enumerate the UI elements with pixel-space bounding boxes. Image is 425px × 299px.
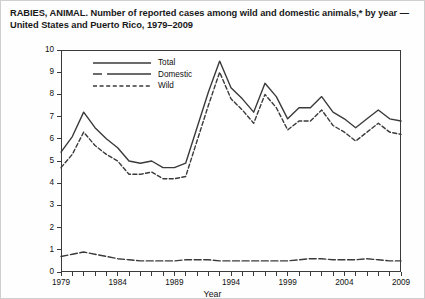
x-tick-label: 2009 [384, 278, 418, 287]
x-tick-mark [106, 272, 107, 276]
legend-swatch-dashed [93, 81, 151, 91]
y-tick-label: 0 [36, 267, 54, 276]
x-tick-mark [265, 272, 266, 276]
legend-item-total: Total [93, 57, 192, 69]
y-tick-mark [57, 205, 61, 206]
x-tick-mark [129, 272, 130, 276]
x-tick-mark [367, 272, 368, 276]
legend-item-domestic: Domestic [93, 69, 192, 81]
x-tick-mark [72, 272, 73, 276]
y-tick-label: 7 [36, 112, 54, 121]
x-tick-mark [378, 272, 379, 276]
x-tick-mark [174, 272, 175, 276]
x-tick-mark [197, 272, 198, 276]
y-tick-mark [57, 94, 61, 95]
y-tick-label: 5 [36, 156, 54, 165]
y-tick-mark [57, 249, 61, 250]
x-tick-mark [310, 272, 311, 276]
x-tick-mark [333, 272, 334, 276]
x-tick-label: 2004 [327, 278, 361, 287]
x-tick-label: 1994 [214, 278, 248, 287]
chart-title: RABIES, ANIMAL. Number of reported cases… [10, 8, 416, 31]
y-tick-mark [57, 72, 61, 73]
legend-item-wild: Wild [93, 80, 192, 92]
x-tick-mark [208, 272, 209, 276]
x-tick-label: 1979 [44, 278, 78, 287]
x-tick-mark [321, 272, 322, 276]
legend-label: Total [158, 58, 175, 67]
x-tick-mark [231, 272, 232, 276]
x-tick-mark [219, 272, 220, 276]
y-tick-label: 2 [36, 223, 54, 232]
y-tick-mark [57, 50, 61, 51]
x-tick-mark [140, 272, 141, 276]
x-tick-label: 1989 [157, 278, 191, 287]
y-tick-mark [57, 183, 61, 184]
x-tick-mark [253, 272, 254, 276]
x-tick-mark [185, 272, 186, 276]
chart-page: RABIES, ANIMAL. Number of reported cases… [0, 0, 425, 299]
x-tick-mark [95, 272, 96, 276]
y-tick-label: 6 [36, 134, 54, 143]
x-tick-mark [163, 272, 164, 276]
x-tick-mark [61, 272, 62, 276]
legend-swatch-solid [93, 58, 151, 68]
x-tick-mark [401, 272, 402, 276]
y-tick-mark [57, 227, 61, 228]
legend-swatch-dash-dot [93, 69, 151, 79]
y-tick-label: 4 [36, 178, 54, 187]
chart-legend: TotalDomesticWild [93, 57, 192, 92]
y-tick-label: 1 [36, 245, 54, 254]
x-tick-mark [242, 272, 243, 276]
x-tick-mark [299, 272, 300, 276]
y-tick-label: 9 [36, 67, 54, 76]
x-tick-mark [83, 272, 84, 276]
y-tick-mark [57, 116, 61, 117]
x-tick-mark [151, 272, 152, 276]
x-axis-label: Year [1, 289, 424, 299]
x-tick-mark [344, 272, 345, 276]
y-tick-mark [57, 138, 61, 139]
x-tick-mark [276, 272, 277, 276]
y-tick-label: 3 [36, 200, 54, 209]
x-tick-label: 1984 [101, 278, 135, 287]
x-tick-mark [355, 272, 356, 276]
y-tick-label: 8 [36, 89, 54, 98]
x-tick-mark [287, 272, 288, 276]
y-tick-label: 10 [36, 45, 54, 54]
x-tick-mark [389, 272, 390, 276]
legend-label: Domestic [158, 70, 192, 79]
legend-label: Wild [158, 81, 174, 90]
x-tick-label: 1999 [271, 278, 305, 287]
x-tick-mark [117, 272, 118, 276]
y-tick-mark [57, 161, 61, 162]
